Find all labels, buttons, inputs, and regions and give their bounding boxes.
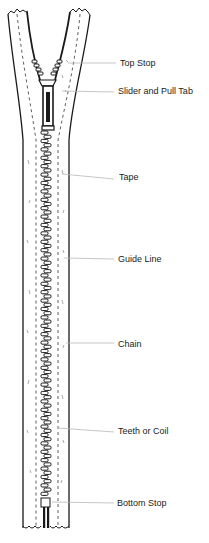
zipper-tape-left xyxy=(8,9,40,528)
label-guide-line: Guide Line xyxy=(118,254,162,265)
label-teeth-or-coil: Teeth or Coil xyxy=(118,426,169,437)
label-chain: Chain xyxy=(118,339,142,350)
zipper-illustration xyxy=(0,0,209,543)
leader-line-guide-line xyxy=(64,258,114,259)
zipper-chain xyxy=(41,131,51,495)
slider-and-pull-tab xyxy=(39,80,56,130)
label-slider-and-pull-tab: Slider and Pull Tab xyxy=(118,86,193,97)
bottom-stop xyxy=(41,498,50,528)
leader-line-slider-and-pull-tab xyxy=(62,91,114,92)
leader-line-tape xyxy=(62,174,114,179)
leader-line-teeth-or-coil xyxy=(58,428,114,432)
label-bottom-stop: Bottom Stop xyxy=(117,498,167,509)
leader-line-bottom-stop xyxy=(52,502,114,503)
label-tape: Tape xyxy=(119,172,139,183)
label-top-stop: Top Stop xyxy=(120,58,156,69)
zipper-tape-right xyxy=(55,8,90,528)
leader-lines xyxy=(52,63,116,503)
tape-bottom-edge xyxy=(23,526,69,528)
